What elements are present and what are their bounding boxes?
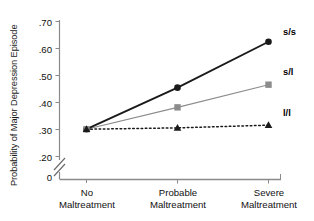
legend-label-s-l: s/l: [283, 67, 293, 77]
data-point-s-s-1: [174, 84, 181, 91]
data-point-s-s-2: [265, 38, 272, 45]
legend-label-l-l: l/l: [283, 108, 291, 118]
x-tick-label-line1: Probable: [142, 187, 214, 199]
x-tick-label-probable-maltreatment: Probable Maltreatment: [142, 187, 214, 210]
x-tick-label-no-maltreatment: No Maltreatment: [51, 187, 123, 210]
x-tick-label-severe-maltreatment: Severe Maltreatment: [233, 187, 305, 210]
data-point-l-l-2: [265, 121, 273, 128]
data-point-s-l-2: [265, 81, 271, 87]
x-tick-label-line1: No: [51, 187, 123, 199]
x-tick-label-line2: Maltreatment: [233, 199, 305, 211]
x-tick-label-line2: Maltreatment: [51, 199, 123, 211]
line-chart: Probability of Major Depression Episode …: [0, 0, 314, 221]
data-point-s-l-1: [174, 104, 180, 110]
x-tick-label-line1: Severe: [233, 187, 305, 199]
x-tick-label-line2: Maltreatment: [142, 199, 214, 211]
legend-label-s-s: s/s: [283, 27, 296, 37]
